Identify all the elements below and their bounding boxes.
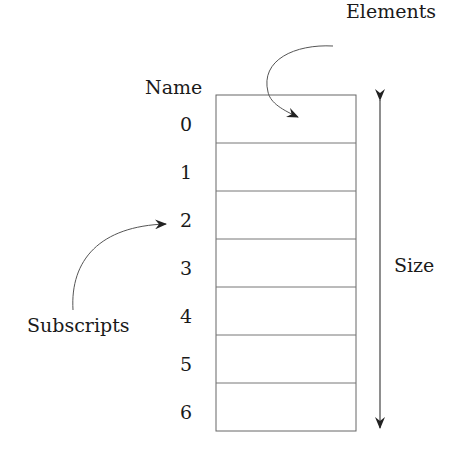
- subscript-1: 1: [176, 163, 196, 182]
- subscript-4: 4: [176, 307, 196, 326]
- subscripts-label: Subscripts: [27, 316, 130, 335]
- cell-dividers: [216, 143, 356, 383]
- subscript-5: 5: [176, 355, 196, 374]
- elements-label: Elements: [346, 2, 436, 21]
- size-label: Size: [394, 256, 434, 275]
- subscript-6: 6: [176, 403, 196, 422]
- subscript-3: 3: [176, 259, 196, 278]
- name-label: Name: [145, 78, 202, 97]
- array-diagram: [0, 0, 466, 456]
- elements-arrow: [267, 46, 333, 117]
- subscript-2: 2: [176, 211, 196, 230]
- subscripts-arrow: [73, 224, 166, 310]
- array-box: [216, 95, 356, 431]
- subscript-0: 0: [176, 115, 196, 134]
